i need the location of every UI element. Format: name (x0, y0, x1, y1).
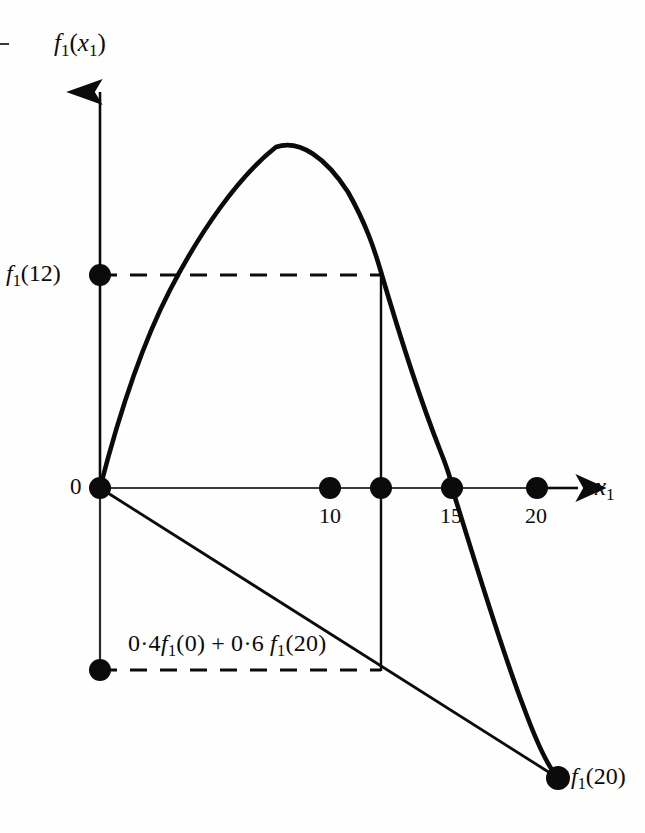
marker-origin (89, 477, 111, 499)
y-axis-label: f1(x1) (54, 30, 106, 59)
label-f20-subscript: 1 (578, 774, 586, 793)
marker-f20-endpoint (546, 766, 570, 790)
x-tick-label-10: 10 (319, 505, 341, 527)
marker-x-10 (319, 477, 341, 499)
combo-arg-2: (20) (285, 630, 326, 656)
label-f1-of-12: f1(12) (6, 261, 61, 289)
combo-coefficient-1: 0·4 (128, 630, 161, 656)
label-f20-fn: f (571, 763, 578, 789)
y-axis-label-open-paren: ( (69, 29, 77, 56)
combo-fn-2: f (264, 630, 277, 656)
x-axis-label-var: x (595, 473, 606, 500)
y-axis-label-close-paren: ) (97, 29, 105, 56)
combo-arg-1: (0) (176, 630, 205, 656)
label-f12-fn: f (6, 260, 13, 286)
curve-f1-of-x1 (100, 145, 558, 778)
combo-plus-sign: + (205, 630, 231, 656)
label-convex-combination: 0·4f1(0)+0·6f1(20) (128, 631, 327, 659)
combo-coefficient-2: 0·6 (231, 630, 264, 656)
origin-label: 0 (70, 475, 82, 498)
function-plot-svg (0, 0, 645, 833)
x-tick-label-15: 15 (440, 505, 462, 527)
label-f20-arg: (20) (586, 763, 626, 789)
marker-f12-level (89, 264, 111, 286)
figure-canvas: f1(x1) x1 f1(12) 0 10 15 20 0·4f1(0)+0·6… (0, 0, 645, 833)
x-axis-label-var-subscript: 1 (606, 485, 615, 504)
label-f12-arg: (12) (21, 260, 61, 286)
y-axis-label-var: x (78, 29, 89, 56)
marker-x-15 (441, 477, 463, 499)
label-f12-subscript: 1 (13, 271, 21, 290)
marker-x-12 (370, 477, 392, 499)
y-axis-label-fn: f (54, 29, 61, 56)
marker-x-20 (526, 477, 548, 499)
x-axis-label: x1 (595, 474, 615, 503)
marker-combination-level (89, 659, 111, 681)
combo-fn-1: f (161, 630, 168, 656)
x-tick-label-20: 20 (525, 505, 547, 527)
label-f1-of-20: f1(20) (571, 764, 626, 792)
